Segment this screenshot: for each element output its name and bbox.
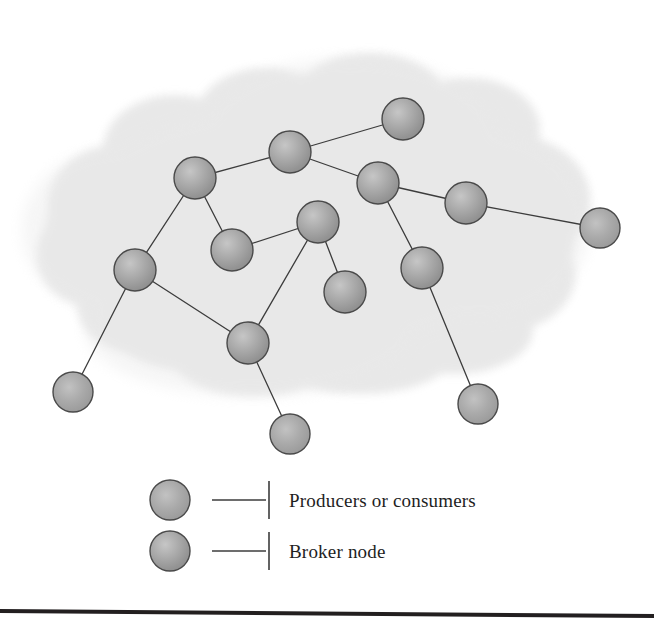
- endpoint-node[interactable]: endpoint-node-bottom-mid: [270, 414, 310, 454]
- broker-node[interactable]: broker-node-9: [324, 271, 366, 313]
- legend-item-broker-node[interactable]: Broker node: [150, 531, 386, 571]
- legend-swatch-broker-icon: [150, 531, 190, 571]
- broker-node[interactable]: broker-node-8: [114, 249, 156, 291]
- endpoint-node[interactable]: endpoint-node-right: [580, 208, 620, 248]
- broker-node[interactable]: broker-node-5: [445, 182, 487, 224]
- broker-node[interactable]: broker-node-4: [357, 162, 399, 204]
- broker-node[interactable]: broker-node-6: [211, 229, 253, 271]
- legend-label-broker-node: Broker node: [289, 541, 386, 562]
- broker-node[interactable]: broker-node-1: [174, 157, 216, 199]
- broker-node[interactable]: broker-node-7: [297, 201, 339, 243]
- endpoint-node[interactable]: endpoint-node-bottom-right: [458, 384, 498, 424]
- broker-node[interactable]: broker-node-3: [382, 98, 424, 140]
- diagram-canvas: broker-node-1broker-node-2broker-node-3b…: [0, 0, 654, 628]
- legend-label-producers-consumers: Producers or consumers: [289, 490, 476, 511]
- legend-swatch-endpoint-icon: [150, 480, 190, 520]
- endpoint-node[interactable]: endpoint-node-bottom-left: [53, 372, 93, 412]
- broker-node[interactable]: broker-node-11: [227, 322, 269, 364]
- diagram-legend: Producers or consumers Broker node: [150, 480, 476, 571]
- legend-item-producers-consumers[interactable]: Producers or consumers: [150, 480, 476, 520]
- broker-node[interactable]: broker-node-2: [269, 131, 311, 173]
- broker-node[interactable]: broker-node-10: [401, 247, 443, 289]
- diagram-figure: broker-node-1broker-node-2broker-node-3b…: [0, 0, 654, 628]
- bottom-rule: [0, 609, 654, 618]
